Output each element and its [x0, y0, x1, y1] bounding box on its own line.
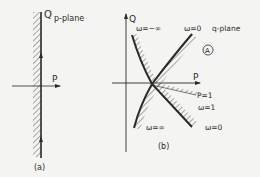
- arrow-right-icon: [55, 84, 61, 88]
- label-omega-neg-inf: ω=−∞: [136, 24, 161, 33]
- label-omega-zero-top: ω=0: [184, 24, 202, 33]
- region-marker-label: A: [205, 47, 210, 55]
- plane-label-b: q-plane: [212, 24, 241, 33]
- plane-label-a: p-plane: [54, 14, 84, 23]
- axis-label-p-b: P: [193, 72, 199, 82]
- caption-a: (a): [34, 163, 45, 172]
- diagram-canvas: Q p-plane P (a) Q ω=−∞ ω=0 q-plane A P P…: [0, 0, 260, 177]
- axis-label-p-a: P: [52, 74, 58, 84]
- left-half-plane-hatching: [33, 12, 41, 157]
- axis-label-q-b: Q: [129, 14, 136, 24]
- label-omega-inf: ω=∞: [146, 123, 165, 132]
- axis-label-q-a: Q: [44, 9, 52, 20]
- caption-b: (b): [158, 142, 169, 151]
- panel-a-p-plane: Q p-plane P (a): [12, 9, 84, 172]
- panel-b-q-plane: Q ω=−∞ ω=0 q-plane A P P=1 ω=1 ω=∞ ω=0 (…: [112, 13, 241, 152]
- label-omega-eq-1: ω=1: [198, 103, 216, 112]
- hatching-curve-upper-right: [152, 34, 197, 86]
- label-omega-zero-bottom: ω=0: [205, 123, 223, 132]
- arrow-up-icon: [124, 13, 128, 19]
- hatching-curve-upper-left: [132, 34, 158, 83]
- label-p-eq-1: P=1: [197, 91, 213, 100]
